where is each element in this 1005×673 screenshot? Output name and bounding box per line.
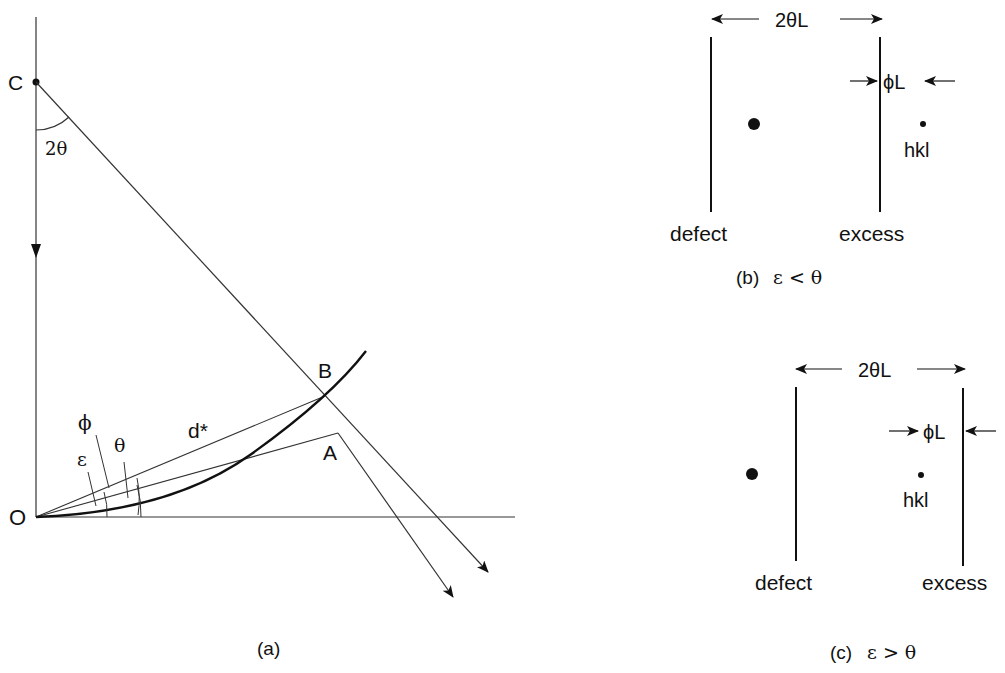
excess-label: excess — [922, 571, 987, 594]
phi-label: ϕ — [78, 411, 92, 435]
width-label: 2θL — [858, 359, 891, 381]
excess-label: excess — [839, 222, 904, 245]
caption-b-prefix: (b) — [736, 267, 759, 288]
theta-label: θ — [114, 434, 125, 456]
point-c-label: C — [8, 71, 23, 94]
phi-width-label: ϕL — [883, 71, 905, 93]
transmitted-spot — [748, 118, 760, 130]
phi-width-label: ϕL — [923, 421, 945, 443]
hkl-label: hkl — [903, 489, 929, 511]
angle-arc-3 — [137, 478, 139, 515]
hkl-spot — [918, 472, 924, 478]
diagram-canvas: C 2θ O B A d* ϕ ε θ (a) 2θL ϕL hkl defec… — [0, 0, 1005, 673]
defect-label: defect — [755, 571, 812, 594]
point-a-label: A — [323, 441, 337, 464]
panel-c: 2θL ϕL hkl defect excess (c) ε > θ — [746, 359, 996, 663]
width-label: 2θL — [775, 9, 808, 31]
two-theta-label: 2θ — [45, 138, 67, 159]
point-b-label: B — [318, 359, 332, 382]
incident-beam-arrow-icon — [31, 244, 41, 258]
line-o-a — [36, 433, 338, 517]
caption-a: (a) — [257, 638, 280, 659]
transmitted-spot — [746, 468, 758, 480]
caption-c-prefix: (c) — [830, 642, 852, 663]
phi-leader — [96, 435, 109, 488]
panel-a: C 2θ O B A d* ϕ ε θ (a) — [8, 17, 515, 659]
d-star-label: d* — [188, 419, 208, 442]
caption-b-condition: ε < θ — [773, 266, 822, 288]
caption-c-condition: ε > θ — [867, 641, 916, 663]
angle-arc-1 — [104, 492, 107, 517]
hkl-spot — [920, 121, 926, 127]
point-o-label: O — [9, 505, 26, 530]
defect-label: defect — [670, 222, 727, 245]
two-theta-arc — [36, 117, 69, 130]
epsilon-label: ε — [77, 448, 87, 470]
panel-b: 2θL ϕL hkl defect excess (b) ε < θ — [670, 9, 955, 288]
hkl-label: hkl — [904, 139, 930, 161]
